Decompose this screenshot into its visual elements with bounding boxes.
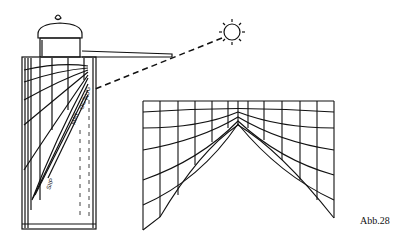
- figure-caption: Abb.28: [360, 215, 390, 226]
- unrolled-hour-grid: [143, 101, 334, 230]
- sun-icon: [219, 19, 245, 45]
- shadow-ray: [95, 38, 222, 89]
- cylinder-body: [22, 57, 96, 229]
- svg-text:AUG: AUG: [83, 86, 91, 100]
- svg-text:MAY: MAY: [70, 112, 79, 126]
- figure-drawing: OCT MAY AUG SIIP: [0, 0, 409, 247]
- gnomon: [82, 51, 172, 57]
- svg-text:SIIP: SIIP: [45, 178, 55, 191]
- dial-cap: [38, 15, 82, 57]
